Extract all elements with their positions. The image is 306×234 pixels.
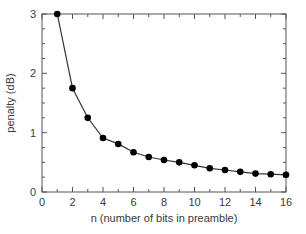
data-point-marker xyxy=(84,115,91,122)
tick-labels: 02468101214160123 xyxy=(30,8,292,208)
x-tick-label: 8 xyxy=(161,196,167,208)
x-tick-label: 14 xyxy=(249,196,261,208)
plot-border xyxy=(42,14,286,192)
data-series xyxy=(54,11,289,178)
x-tick-label: 2 xyxy=(69,196,75,208)
data-point-marker xyxy=(252,170,259,177)
data-point-marker xyxy=(100,135,107,142)
data-point-marker xyxy=(206,165,213,172)
y-tick-label: 1 xyxy=(30,127,36,139)
data-point-marker xyxy=(161,157,168,164)
axes-frame xyxy=(42,14,286,192)
data-point-marker xyxy=(283,171,290,178)
data-point-marker xyxy=(191,162,198,169)
x-tick-label: 12 xyxy=(219,196,231,208)
data-point-marker xyxy=(176,159,183,166)
axis-ticks xyxy=(42,14,286,192)
x-tick-label: 10 xyxy=(188,196,200,208)
data-point-marker xyxy=(267,171,274,178)
data-point-marker xyxy=(115,141,122,148)
plot-area: 02468101214160123 n (number of bits in p… xyxy=(0,0,306,234)
y-tick-label: 0 xyxy=(30,186,36,198)
data-point-marker xyxy=(145,154,152,161)
series-line xyxy=(57,14,286,175)
data-point-marker xyxy=(130,149,137,156)
penalty-vs-preamble-chart: 02468101214160123 n (number of bits in p… xyxy=(0,0,306,234)
y-axis-label: penalty (dB) xyxy=(4,73,16,132)
x-tick-label: 4 xyxy=(100,196,106,208)
y-tick-label: 3 xyxy=(30,8,36,20)
data-point-marker xyxy=(69,85,76,92)
x-axis-label: n (number of bits in preamble) xyxy=(91,212,238,224)
x-tick-label: 0 xyxy=(39,196,45,208)
x-tick-label: 16 xyxy=(280,196,292,208)
data-point-marker xyxy=(54,11,61,18)
x-tick-label: 6 xyxy=(130,196,136,208)
data-point-marker xyxy=(237,169,244,176)
data-point-marker xyxy=(222,167,229,174)
y-tick-label: 2 xyxy=(30,67,36,79)
